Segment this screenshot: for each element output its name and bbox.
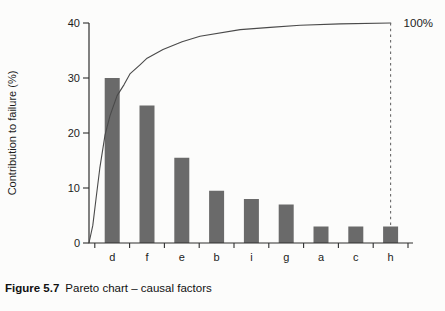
bar-c [348, 227, 363, 244]
x-category-label-b: b [214, 251, 220, 263]
y-tick-label-20: 20 [68, 127, 80, 139]
y-axis-title: Contribution to failure (%) [6, 71, 18, 196]
bar-i [244, 199, 259, 243]
x-category-label-d: d [109, 251, 115, 263]
figure-caption: Figure 5.7Pareto chart – causal factors [5, 282, 212, 294]
x-category-label-h: h [388, 251, 394, 263]
bar-d [105, 78, 120, 243]
pareto-chart-canvas: 010203040dfebigachContribution to failur… [0, 0, 445, 266]
y-tick-label-0: 0 [74, 237, 80, 249]
y-tick-label-10: 10 [68, 182, 80, 194]
pareto-chart: 010203040dfebigachContribution to failur… [0, 0, 445, 266]
bar-e [174, 158, 189, 243]
bar-b [209, 191, 224, 243]
bar-g [279, 205, 294, 244]
y-tick-label-40: 40 [68, 17, 80, 29]
figure-caption-text: Pareto chart – causal factors [65, 282, 211, 294]
x-category-label-g: g [283, 251, 289, 263]
figure-caption-label: Figure 5.7 [5, 282, 59, 294]
hundred-percent-label: 100% [404, 17, 433, 29]
scanned-book-figure-page: 010203040dfebigachContribution to failur… [0, 0, 445, 311]
bar-f [140, 106, 155, 244]
x-category-label-i: i [250, 251, 252, 263]
bar-a [314, 227, 329, 244]
x-category-label-c: c [353, 251, 359, 263]
y-tick-label-30: 30 [68, 72, 80, 84]
cumulative-curve [89, 23, 391, 243]
x-category-label-a: a [318, 251, 325, 263]
x-category-label-e: e [179, 251, 185, 263]
x-category-label-f: f [145, 251, 149, 263]
